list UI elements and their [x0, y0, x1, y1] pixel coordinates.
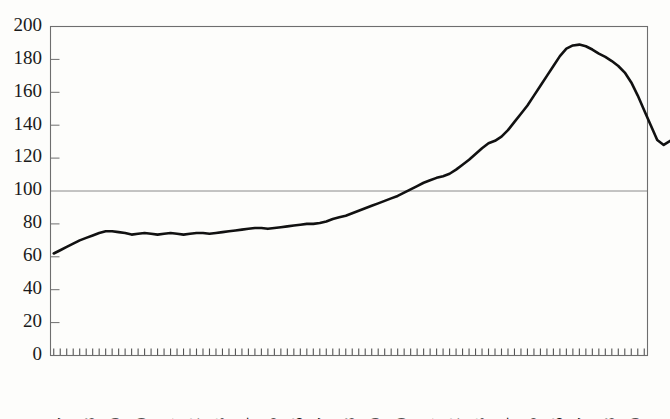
y-axis-tick-label: 140 [14, 113, 43, 134]
y-axis-tick-label: 80 [23, 211, 42, 232]
y-axis-tick-label: 160 [14, 80, 43, 101]
chart-container: 020406080100120140160180200 198719881989… [0, 0, 670, 419]
y-axis-tick-label: 40 [23, 277, 42, 298]
y-axis-tick-label: 100 [14, 178, 43, 199]
y-axis-tick-label: 60 [23, 244, 42, 265]
y-axis-tick-label: 180 [14, 47, 43, 68]
y-axis-tick-label: 20 [23, 310, 42, 331]
y-axis-tick-label: 200 [14, 14, 43, 35]
line-chart: 020406080100120140160180200 198719881989… [0, 0, 670, 419]
y-axis-tick-label: 0 [33, 343, 43, 364]
y-axis-tick-label: 120 [14, 145, 43, 166]
chart-background [0, 0, 670, 419]
